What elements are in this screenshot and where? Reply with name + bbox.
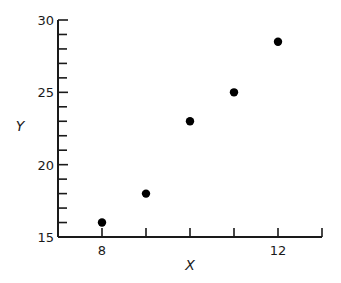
- y-axis-label: Y: [16, 118, 26, 134]
- y-axis: 15202530: [37, 13, 68, 245]
- x-tick-label: 12: [270, 243, 287, 258]
- y-tick-label: 25: [37, 85, 54, 100]
- y-tick-label: 15: [37, 230, 54, 245]
- x-axis: 812: [58, 228, 322, 258]
- data-point: [186, 117, 194, 125]
- x-tick-label: 8: [98, 243, 106, 258]
- data-point: [142, 189, 150, 197]
- y-tick-label: 20: [37, 158, 54, 173]
- data-point: [98, 218, 106, 226]
- data-point: [230, 88, 238, 96]
- scatter-chart: 15202530 812 X Y: [0, 0, 341, 283]
- data-point: [274, 38, 282, 46]
- data-points: [98, 38, 282, 227]
- x-axis-label: X: [184, 257, 195, 273]
- y-tick-label: 30: [37, 13, 54, 28]
